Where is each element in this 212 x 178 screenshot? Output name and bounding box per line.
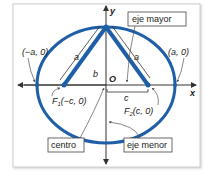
right-vertex-label: (a, 0): [168, 47, 189, 57]
left-vertex-point: [35, 83, 39, 87]
segment-b-label: b: [93, 69, 98, 79]
svg-text:F1(−c, 0): F1(−c, 0): [52, 96, 87, 107]
focus1-point: [62, 83, 67, 88]
origin-label: O: [109, 74, 116, 84]
center-callout: centro: [51, 140, 76, 150]
segment-a-left-label: a: [74, 52, 79, 62]
top-vertex-point: [104, 25, 109, 30]
focus2-label: F2(c, 0): [124, 106, 153, 117]
ellipse-diagram: y x O a a b c (−a, 0) (a, 0) F1(−c, 0) F…: [0, 0, 212, 178]
left-vertex-label: (−a, 0): [22, 47, 48, 57]
segment-a-right-label: a: [134, 52, 139, 62]
minor-axis-callout: eje menor: [127, 140, 167, 150]
focus1-label: F1(−c, 0): [52, 96, 87, 107]
focus2-point: [146, 83, 151, 88]
major-axis-callout: eje mayor: [132, 14, 172, 24]
svg-text:F2(c, 0): F2(c, 0): [124, 106, 153, 117]
segment-c-label: c: [124, 93, 129, 103]
right-vertex-point: [173, 83, 177, 87]
y-axis-label: y: [109, 6, 116, 16]
x-axis-label: x: [189, 88, 196, 98]
